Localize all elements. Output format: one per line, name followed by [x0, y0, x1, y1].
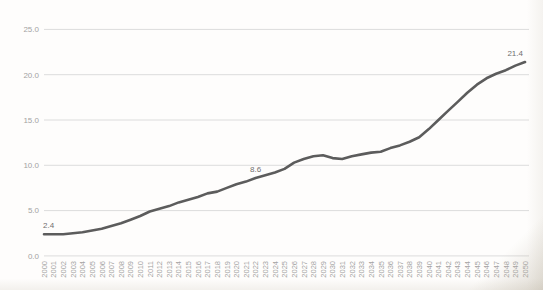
data-point-label: 2.4 — [43, 221, 55, 230]
x-tick-label: 2049 — [511, 261, 520, 278]
data-point-label: 21.4 — [507, 49, 523, 58]
x-tick-label: 2050 — [521, 261, 530, 278]
y-tick-label: 15.0 — [23, 116, 39, 125]
x-tick-label: 2040 — [425, 261, 434, 278]
x-tick-label: 2041 — [434, 261, 443, 278]
x-tick-label: 2014 — [174, 261, 183, 278]
data-point-labels: 2.48.621.4 — [43, 49, 524, 230]
x-tick-label: 2029 — [319, 261, 328, 278]
x-axis-tick-labels: 2000200120022003200420052006200720082009… — [40, 261, 530, 278]
x-tick-label: 2002 — [59, 261, 68, 278]
x-tick-label: 2021 — [242, 261, 251, 278]
x-tick-label: 2043 — [453, 261, 462, 278]
x-tick-label: 2017 — [203, 261, 212, 278]
y-tick-label: 5.0 — [28, 206, 40, 215]
x-tick-label: 2024 — [271, 261, 280, 278]
y-tick-label: 10.0 — [23, 161, 39, 170]
x-tick-label: 2005 — [88, 261, 97, 278]
x-tick-label: 2003 — [69, 261, 78, 278]
x-tick-label: 2034 — [367, 261, 376, 278]
y-axis-tick-labels: 0.05.010.015.020.025.0 — [23, 25, 39, 261]
x-tick-label: 2008 — [117, 261, 126, 278]
y-tick-label: 20.0 — [23, 71, 39, 80]
x-tick-label: 2007 — [107, 261, 116, 278]
data-series-line — [44, 62, 525, 234]
x-tick-label: 2030 — [328, 261, 337, 278]
x-tick-label: 2010 — [136, 261, 145, 278]
x-tick-label: 2032 — [348, 261, 357, 278]
x-tick-label: 2000 — [40, 261, 49, 278]
x-tick-label: 2025 — [280, 261, 289, 278]
x-tick-label: 2001 — [49, 261, 58, 278]
x-tick-label: 2023 — [261, 261, 270, 278]
x-tick-label: 2022 — [251, 261, 260, 278]
x-tick-label: 2006 — [98, 261, 107, 278]
x-tick-label: 2028 — [309, 261, 318, 278]
x-tick-label: 2033 — [357, 261, 366, 278]
x-tick-label: 2016 — [194, 261, 203, 278]
x-tick-label: 2046 — [482, 261, 491, 278]
gridlines — [44, 29, 529, 256]
y-tick-label: 25.0 — [23, 25, 39, 34]
x-tick-label: 2044 — [463, 261, 472, 278]
x-tick-label: 2026 — [290, 261, 299, 278]
x-tick-label: 2042 — [444, 261, 453, 278]
x-tick-label: 2013 — [165, 261, 174, 278]
x-tick-label: 2036 — [386, 261, 395, 278]
line-chart: 0.05.010.015.020.025.0 20002001200220032… — [0, 0, 543, 290]
x-tick-label: 2018 — [213, 261, 222, 278]
y-tick-label: 0.0 — [28, 252, 40, 261]
x-tick-label: 2031 — [338, 261, 347, 278]
x-tick-label: 2012 — [155, 261, 164, 278]
chart-canvas: 0.05.010.015.020.025.0 20002001200220032… — [0, 0, 543, 290]
x-tick-label: 2038 — [405, 261, 414, 278]
x-tick-label: 2047 — [492, 261, 501, 278]
x-tick-label: 2009 — [126, 261, 135, 278]
x-tick-label: 2035 — [377, 261, 386, 278]
x-tick-label: 2048 — [502, 261, 511, 278]
data-point-label: 8.6 — [250, 165, 262, 174]
x-tick-label: 2037 — [396, 261, 405, 278]
x-tick-label: 2019 — [223, 261, 232, 278]
x-tick-label: 2039 — [415, 261, 424, 278]
x-tick-label: 2027 — [300, 261, 309, 278]
x-tick-label: 2045 — [473, 261, 482, 278]
x-tick-label: 2011 — [146, 261, 155, 277]
x-tick-label: 2015 — [184, 261, 193, 278]
x-tick-label: 2004 — [78, 261, 87, 278]
x-tick-label: 2020 — [232, 261, 241, 278]
